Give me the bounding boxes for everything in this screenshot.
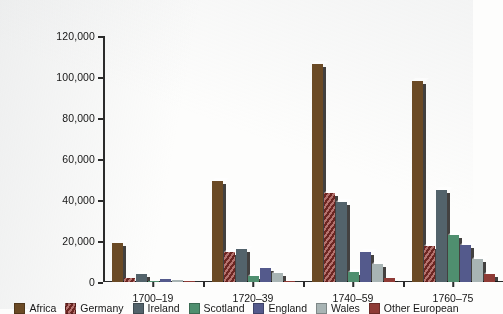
legend-label: Scotland [204, 302, 245, 314]
legend-label: Other European [384, 302, 459, 314]
bar-group: 1700–19 [103, 36, 203, 282]
bar-africa [312, 64, 323, 282]
y-axis-tick-label: 100,000 [56, 71, 95, 83]
bar-other-european [384, 278, 395, 282]
legend-item-germany[interactable]: Germany [65, 302, 123, 314]
bar-wales [172, 280, 183, 282]
bar-africa [112, 243, 123, 282]
bar-group-bars [103, 36, 203, 282]
bar-group: 1760–75 [403, 36, 503, 282]
bar-groups: 1700–191720–391740–591760–75 [103, 36, 503, 282]
legend-swatch-icon [316, 303, 327, 314]
y-axis-tick [98, 282, 103, 284]
x-axis-group-separator [203, 282, 205, 287]
bar-ireland [236, 249, 247, 282]
bar-africa [212, 181, 223, 282]
legend-swatch-icon [189, 303, 200, 314]
bar-group-bars [203, 36, 303, 282]
y-axis-tick-label: 20,000 [62, 235, 95, 247]
x-axis-group-separator [303, 282, 305, 287]
bar-scotland [448, 235, 459, 282]
bar-group-bars [403, 36, 503, 282]
legend-label: Germany [80, 302, 123, 314]
legend-swatch-icon [133, 303, 144, 314]
legend-label: England [268, 302, 307, 314]
bar-wales [472, 259, 483, 282]
legend-label: Africa [29, 302, 56, 314]
x-axis-tick [352, 282, 354, 287]
bar-england [360, 252, 371, 282]
bar-germany [224, 252, 235, 282]
x-axis-group-separator [403, 282, 405, 287]
bar-ireland [136, 274, 147, 282]
bar-ireland [436, 190, 447, 282]
y-axis-tick-label: 40,000 [62, 194, 95, 206]
y-axis-tick-label: 80,000 [62, 112, 95, 124]
bar-africa [412, 81, 423, 282]
legend-item-scotland[interactable]: Scotland [189, 302, 245, 314]
bar-group: 1740–59 [303, 36, 403, 282]
legend-item-ireland[interactable]: Ireland [133, 302, 180, 314]
y-axis-tick-label: 120,000 [56, 30, 95, 42]
legend-swatch-icon [14, 303, 25, 314]
bar-scotland [348, 272, 359, 282]
chart-legend: AfricaGermanyIrelandScotlandEnglandWales… [40, 302, 433, 314]
x-axis-tick [452, 282, 454, 287]
bar-england [260, 268, 271, 282]
legend-swatch-icon [369, 303, 380, 314]
y-axis-tick-label: 0 [89, 276, 95, 288]
legend-item-africa[interactable]: Africa [14, 302, 56, 314]
bar-england [460, 245, 471, 282]
bar-group-bars [303, 36, 403, 282]
bar-germany [424, 246, 435, 282]
x-axis-tick [252, 282, 254, 287]
bar-england [160, 279, 171, 282]
bar-germany [124, 278, 135, 282]
legend-label: Ireland [148, 302, 180, 314]
legend-item-wales[interactable]: Wales [316, 302, 360, 314]
legend-swatch-icon [253, 303, 264, 314]
bar-wales [272, 273, 283, 282]
bar-wales [372, 264, 383, 282]
plot-area: 120,000100,00080,00060,00040,00020,0000 … [103, 36, 503, 282]
y-axis-tick-label: 60,000 [62, 153, 95, 165]
legend-item-england[interactable]: England [253, 302, 307, 314]
bar-other-european [184, 281, 195, 283]
x-axis-tick [152, 282, 154, 287]
legend-swatch-icon [65, 303, 76, 314]
grouped-bar-chart: 120,000100,00080,00060,00040,00020,0000 … [40, 16, 433, 293]
bar-other-european [284, 281, 295, 283]
bar-ireland [336, 202, 347, 282]
legend-label: Wales [331, 302, 360, 314]
bar-group: 1720–39 [203, 36, 303, 282]
bar-other-european [484, 274, 495, 282]
bar-germany [324, 193, 335, 282]
legend-item-other-european[interactable]: Other European [369, 302, 459, 314]
